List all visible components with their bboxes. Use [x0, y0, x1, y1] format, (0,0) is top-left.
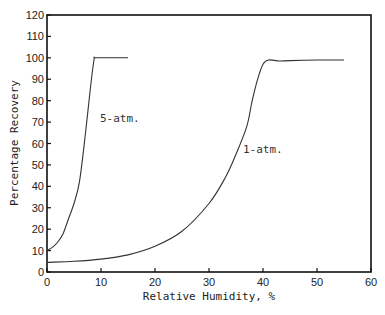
axes: 0102030405060010203040506070809010011012… — [26, 9, 377, 288]
x-tick-label: 50 — [311, 276, 323, 288]
x-tick-label: 40 — [257, 276, 269, 288]
y-tick-label: 50 — [32, 159, 44, 171]
y-tick-label: 70 — [32, 116, 44, 128]
series-line-1atm — [47, 60, 344, 263]
y-tick-label: 0 — [38, 266, 44, 278]
y-tick-label: 90 — [32, 73, 44, 85]
y-tick-label: 80 — [32, 95, 44, 107]
x-axis-title: Relative Humidity, % — [143, 290, 276, 303]
x-tick-label: 0 — [44, 276, 50, 288]
y-axis-title: Percentage Recovery — [8, 80, 21, 206]
series-group — [47, 57, 344, 262]
chart: 0102030405060010203040506070809010011012… — [0, 0, 385, 315]
annotation-5atm: 5-atm. — [100, 112, 140, 125]
x-tick-label: 10 — [95, 276, 107, 288]
y-tick-label: 30 — [32, 202, 44, 214]
x-tick-label: 30 — [203, 276, 215, 288]
y-tick-label: 110 — [26, 30, 44, 42]
y-tick-label: 120 — [26, 9, 44, 21]
y-tick-label: 40 — [32, 180, 44, 192]
y-tick-label: 20 — [32, 223, 44, 235]
plot-frame — [47, 15, 371, 272]
x-tick-label: 20 — [149, 276, 161, 288]
x-tick-label: 60 — [365, 276, 377, 288]
series-line-5atm — [47, 57, 128, 251]
y-tick-label: 10 — [32, 245, 44, 257]
y-tick-label: 60 — [32, 138, 44, 150]
annotation-1atm: 1-atm. — [243, 143, 283, 156]
y-tick-label: 100 — [26, 52, 44, 64]
